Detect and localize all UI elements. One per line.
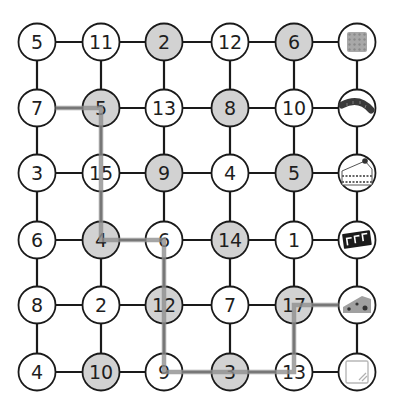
chocolate-bar-icon bbox=[347, 32, 367, 52]
node-value: 2 bbox=[95, 294, 107, 316]
grid-lines bbox=[37, 42, 357, 372]
grid-nodes: 5112126751381031594564614182127174109313 bbox=[19, 24, 376, 391]
number-node[interactable]: 7 bbox=[212, 287, 249, 324]
icon-node[interactable] bbox=[339, 155, 376, 192]
node-value: 14 bbox=[218, 229, 242, 251]
node-value: 8 bbox=[31, 294, 43, 316]
puzzle-board: 5112126751381031594564614182127174109313 bbox=[0, 0, 395, 402]
icon-node[interactable] bbox=[339, 90, 376, 127]
number-node[interactable]: 12 bbox=[212, 24, 249, 61]
node-value: 13 bbox=[152, 97, 176, 119]
number-node[interactable]: 8 bbox=[19, 287, 56, 324]
node-value: 12 bbox=[218, 31, 242, 53]
number-node[interactable]: 4 bbox=[19, 354, 56, 391]
node-value: 1 bbox=[288, 229, 300, 251]
icon-node[interactable] bbox=[339, 222, 376, 259]
node-value: 6 bbox=[31, 229, 43, 251]
node-value: 11 bbox=[89, 31, 113, 53]
icon-node[interactable] bbox=[339, 354, 376, 391]
number-node[interactable]: 14 bbox=[212, 222, 249, 259]
number-node[interactable]: 6 bbox=[276, 24, 313, 61]
number-node[interactable]: 11 bbox=[83, 24, 120, 61]
node-value: 10 bbox=[282, 97, 306, 119]
icon-node[interactable] bbox=[339, 24, 376, 61]
node-value: 4 bbox=[31, 361, 43, 383]
number-node[interactable]: 10 bbox=[276, 90, 313, 127]
node-value: 3 bbox=[31, 162, 43, 184]
node-value: 9 bbox=[158, 162, 170, 184]
number-node[interactable]: 5 bbox=[19, 24, 56, 61]
empty-box-icon bbox=[346, 361, 368, 383]
node-value: 7 bbox=[224, 294, 236, 316]
number-node[interactable]: 6 bbox=[19, 222, 56, 259]
number-node[interactable]: 3 bbox=[19, 155, 56, 192]
node-value: 5 bbox=[31, 31, 43, 53]
number-node[interactable]: 1 bbox=[276, 222, 313, 259]
node-value: 7 bbox=[31, 97, 43, 119]
node-value: 8 bbox=[224, 97, 236, 119]
node-value: 2 bbox=[158, 31, 170, 53]
number-node[interactable]: 5 bbox=[276, 155, 313, 192]
node-value: 10 bbox=[89, 361, 113, 383]
number-node[interactable]: 9 bbox=[146, 155, 183, 192]
node-value: 4 bbox=[224, 162, 236, 184]
icon-node[interactable] bbox=[339, 287, 376, 324]
node-value: 6 bbox=[288, 31, 300, 53]
number-node[interactable]: 4 bbox=[212, 155, 249, 192]
number-node[interactable]: 7 bbox=[19, 90, 56, 127]
number-node[interactable]: 2 bbox=[83, 287, 120, 324]
number-node[interactable]: 10 bbox=[83, 354, 120, 391]
number-node[interactable]: 13 bbox=[146, 90, 183, 127]
node-value: 5 bbox=[288, 162, 300, 184]
number-node[interactable]: 2 bbox=[146, 24, 183, 61]
number-node[interactable]: 8 bbox=[212, 90, 249, 127]
